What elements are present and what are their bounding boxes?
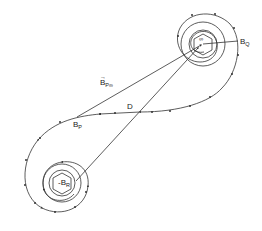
bp-sub: P <box>78 124 82 130</box>
label-br: -BR <box>58 179 70 189</box>
label-bp-infinity: → BP∞ <box>100 79 113 89</box>
label-d: D <box>127 103 133 111</box>
bq-sub: Q <box>245 41 249 47</box>
bpinf-sub: P∞ <box>105 82 113 88</box>
spiral-diagram <box>0 0 262 231</box>
label-bp: BP <box>73 121 82 131</box>
br-sub: R <box>66 182 70 188</box>
vector-bp-infinity <box>77 45 201 117</box>
vector-arrow-glyph: → <box>100 74 106 80</box>
label-infinity: ∞ <box>199 36 203 42</box>
br-main: -B <box>58 178 66 187</box>
upper-loop-field-line <box>177 14 237 88</box>
label-bq: BQ <box>240 38 250 48</box>
vector-bq <box>203 41 238 44</box>
